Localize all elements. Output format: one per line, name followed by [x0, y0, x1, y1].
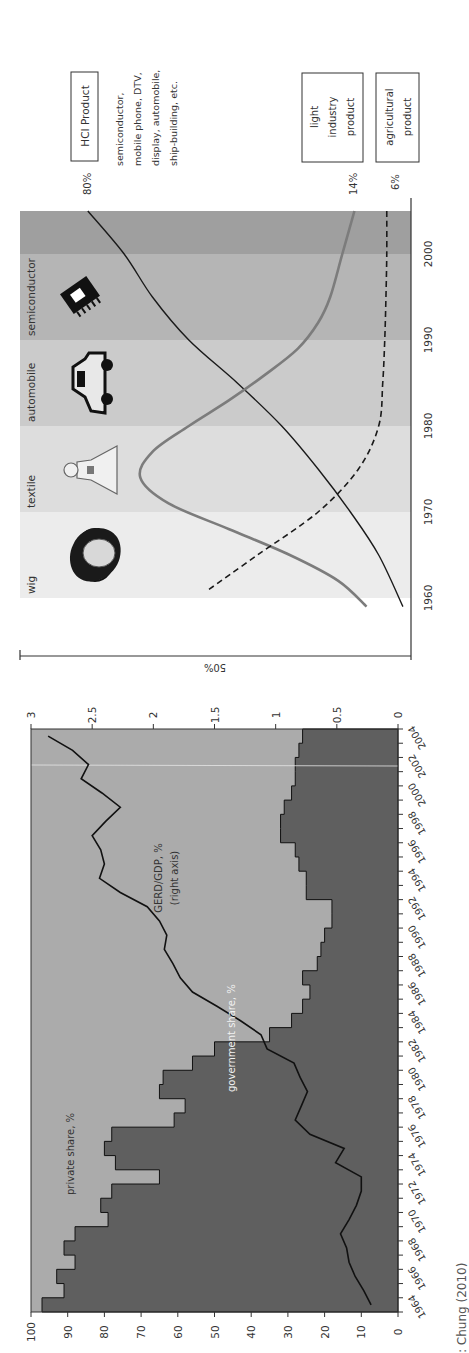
government-share-label: government share, %: [226, 984, 237, 1092]
year-tick-1970: 1970: [406, 1208, 428, 1236]
left-axis-tick-90: 90: [62, 1325, 74, 1338]
left-axis-tick-80: 80: [98, 1325, 110, 1338]
year-tick-2000: 2000: [406, 781, 428, 809]
agri-label-line-2: product: [402, 98, 413, 137]
left-axis-tick-100: 100: [25, 1322, 37, 1342]
year-tick-1980: 1980: [406, 1065, 428, 1093]
gerd-gdp-label: GERD/GDP, %: [153, 843, 164, 912]
year-tick-1972: 1972: [406, 1179, 428, 1207]
agri-end-value: 6%: [390, 174, 401, 190]
gerd-right-axis-note: (right axis): [169, 851, 180, 906]
year-tick-1986: 1986: [406, 980, 428, 1008]
year-tick-1996: 1996: [406, 838, 428, 866]
left-axis-share-percent: 0102030405060708090100: [25, 1312, 404, 1342]
right-axis-tick-2: 2: [147, 712, 159, 719]
hci-end-value: 80%: [82, 173, 93, 195]
year-tick-1992: 1992: [406, 895, 428, 923]
right-axis-tick-0.5: 0.5: [331, 707, 343, 724]
year-tick-2002: 2002: [406, 753, 428, 781]
right-axis-tick-0: 0: [392, 712, 404, 719]
year-tick-1994: 1994: [406, 866, 428, 894]
era-label-textile: textile: [25, 475, 37, 508]
left-axis-tick-40: 40: [245, 1325, 257, 1338]
left-axis-tick-30: 30: [282, 1325, 294, 1338]
year-tick-1978: 1978: [406, 1094, 428, 1122]
right-axis-tick-3: 3: [25, 712, 37, 719]
agricultural-legend-box: agricultural product: [376, 73, 419, 162]
year-tick-1982: 1982: [406, 1037, 428, 1065]
left-axis-tick-20: 20: [319, 1325, 331, 1338]
light-label-line-3: product: [345, 98, 356, 137]
year-label-2000: 2000: [422, 241, 434, 268]
year-label-1960: 1960: [422, 585, 434, 612]
upper-year-tick-labels: 19601970198019902000: [422, 241, 434, 612]
hci-product-legend-box: HCI Product: [71, 72, 98, 161]
left-axis-tick-50: 50: [209, 1325, 221, 1338]
left-axis-tick-10: 10: [355, 1325, 367, 1338]
era-label-wig: wig: [25, 576, 37, 594]
light-industry-legend-box: light industry product: [302, 73, 363, 162]
right-axis-tick-1.5: 1.5: [209, 707, 221, 724]
upper-y-axis-label: 50%: [204, 662, 226, 673]
light-end-value: 14%: [348, 173, 359, 195]
hci-product-label: HCI Product: [79, 85, 91, 147]
year-label-1980: 1980: [422, 413, 434, 440]
hci-description: semiconductor, mobile phone, DTV, displa…: [114, 70, 179, 166]
source-note: : Chung (2010): [455, 1263, 469, 1353]
right-axis-tick-1: 1: [270, 712, 282, 719]
right-axis-tick-2.5: 2.5: [86, 707, 98, 724]
right-axis-gerd-gdp: 00.511.522.53: [25, 707, 404, 729]
year-tick-1964: 1964: [406, 1293, 428, 1321]
year-tick-2004: 2004: [406, 724, 428, 752]
private-share-label: private share, %: [65, 1113, 76, 1195]
year-tick-1984: 1984: [406, 1008, 428, 1036]
rnd-share-chart: 0102030405060708090100 00.511.522.53 196…: [25, 707, 428, 1342]
hci-description-line-3: display, automobile,: [150, 70, 161, 166]
year-axis: 1964196619681970197219741976197819801982…: [398, 724, 428, 1320]
export-composition-chart: wigtextileautomobilesemiconductor: [20, 70, 434, 673]
era-label-automobile: automobile: [25, 363, 37, 422]
year-label-1990: 1990: [422, 327, 434, 354]
year-tick-1966: 1966: [406, 1264, 428, 1292]
light-label-line-1: light: [309, 106, 320, 128]
year-tick-1990: 1990: [406, 923, 428, 951]
year-tick-1998: 1998: [406, 809, 428, 837]
left-axis-tick-70: 70: [135, 1325, 147, 1338]
hci-description-line-1: semiconductor,: [114, 93, 125, 166]
left-axis-tick-0: 0: [392, 1329, 404, 1336]
year-tick-1968: 1968: [406, 1236, 428, 1264]
year-label-1970: 1970: [422, 499, 434, 526]
year-tick-1988: 1988: [406, 952, 428, 980]
figure-canvas: wigtextileautomobilesemiconductor: [0, 0, 469, 1353]
year-tick-1974: 1974: [406, 1151, 428, 1179]
era-label-semiconductor: semiconductor: [25, 257, 37, 336]
left-axis-tick-60: 60: [172, 1325, 184, 1338]
light-label-line-2: industry: [327, 96, 338, 137]
agri-label-line-1: agricultural: [384, 88, 395, 145]
hci-description-line-4: ship-building, etc.: [168, 81, 179, 166]
hci-description-line-2: mobile phone, DTV,: [132, 72, 143, 166]
year-tick-1976: 1976: [406, 1122, 428, 1150]
